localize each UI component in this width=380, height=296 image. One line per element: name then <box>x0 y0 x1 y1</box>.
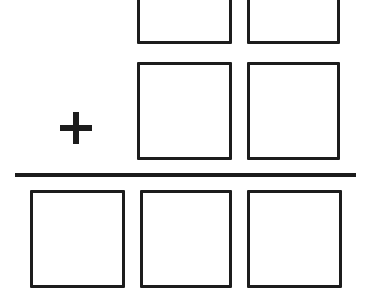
sum-rule-divider <box>15 173 356 177</box>
sum-tens-value <box>143 193 229 285</box>
second-addend-tens-value <box>140 65 229 157</box>
sum-ones-box[interactable] <box>247 190 342 288</box>
second-addend-tens-box[interactable] <box>137 62 232 160</box>
second-addend-ones-value <box>250 65 337 157</box>
plus-operator-icon <box>60 112 92 144</box>
sum-ones-value <box>250 193 339 285</box>
addition-worksheet <box>0 0 380 296</box>
sum-hundreds-box[interactable] <box>30 190 125 288</box>
first-addend-ones-value <box>250 0 337 41</box>
sum-hundreds-value <box>33 193 122 285</box>
second-addend-ones-box[interactable] <box>247 62 340 160</box>
first-addend-tens-box[interactable] <box>137 0 232 44</box>
first-addend-tens-value <box>140 0 229 41</box>
sum-tens-box[interactable] <box>140 190 232 288</box>
plus-vertical-bar <box>73 112 79 144</box>
first-addend-ones-box[interactable] <box>247 0 340 44</box>
